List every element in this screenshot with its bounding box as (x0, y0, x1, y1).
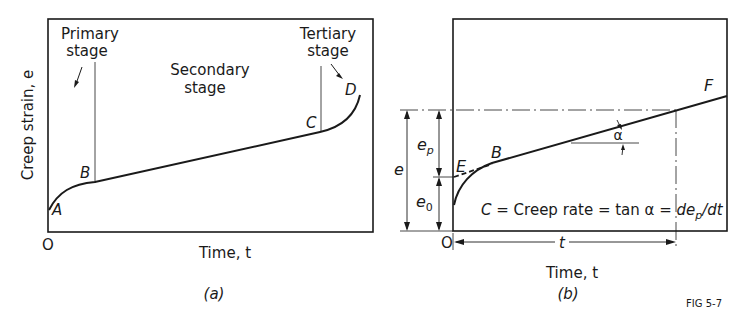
panel-b-x-axis-label: Time, t (545, 264, 598, 282)
e-dimension-arrow (404, 110, 410, 231)
point-b-label-b: B (491, 143, 502, 162)
ep-dimension-label: ep (417, 135, 434, 157)
point-c-label: C (306, 114, 317, 132)
tertiary-arrow-icon (331, 64, 343, 79)
secondary-stage-label-1: Secondary (170, 61, 250, 79)
point-e-label: E (456, 157, 467, 176)
primary-stage-label-1: Primary (61, 25, 119, 43)
figure-number-label: FIG 5-7 (686, 298, 722, 309)
panel-a-origin-label: O (42, 236, 54, 254)
panel-b-caption: (b) (557, 285, 578, 303)
panel-a-caption: (a) (204, 285, 225, 303)
creep-curve-figure: Primary stage Secondary stage Tertiary s… (0, 0, 750, 318)
panel-a-creep-curve (49, 95, 360, 210)
point-b-label: B (80, 164, 90, 182)
ep-dimension-arrow (436, 110, 442, 177)
primary-arrow-icon (74, 67, 82, 88)
angle-alpha-label: α (613, 127, 622, 143)
point-f-label: F (704, 76, 714, 95)
panel-a-y-axis-label: Creep strain, e (19, 70, 37, 181)
e0-dimension-label: e0 (416, 192, 433, 214)
creep-rate-equation: C = Creep rate = tan α = dep/dt (481, 201, 724, 222)
point-d-label: D (345, 81, 357, 99)
panel-b-origin-label: O (441, 234, 453, 252)
panel-a: Primary stage Secondary stage Tertiary s… (19, 19, 373, 303)
panel-a-x-axis-label: Time, t (198, 244, 251, 262)
panel-b-frame (453, 19, 727, 231)
tertiary-stage-label-2: stage (307, 42, 349, 60)
secondary-stage-label-2: stage (184, 79, 226, 97)
point-a-label: A (51, 201, 62, 219)
e0-dimension-arrow (436, 177, 442, 231)
panel-b: α e ep e0 E B F C = Creep rate = tan α =… (394, 19, 727, 303)
e-dimension-label: e (394, 160, 404, 179)
primary-stage-label-2: stage (66, 42, 108, 60)
tertiary-stage-label-1: Tertiary (299, 25, 356, 43)
